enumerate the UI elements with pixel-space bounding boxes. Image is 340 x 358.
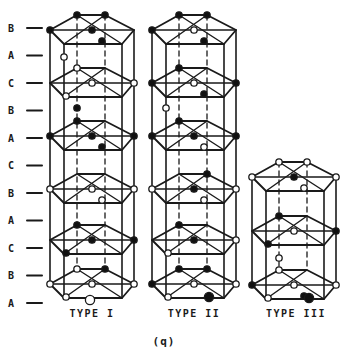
atom-c-open (89, 80, 95, 86)
stacking-sequence-axis: BACBACBACBA (8, 23, 42, 309)
atom-c-open (291, 282, 297, 288)
atom-bl-open (63, 93, 69, 99)
atom-tl-filled (176, 118, 182, 124)
atom-l-filled (249, 282, 255, 288)
atom-br-filled (201, 38, 207, 44)
atom-bl-open (165, 250, 171, 256)
atom-c-open (89, 281, 95, 287)
atom-br-open (201, 197, 207, 203)
atom-tl-open (74, 65, 80, 71)
atom-c-filled (89, 237, 95, 243)
atom-tl-open (276, 267, 282, 273)
atom-fb-open (85, 295, 94, 304)
atom-tl-filled (176, 65, 182, 71)
figure-caption: (q) (153, 335, 176, 348)
stacking-label: A (8, 215, 14, 226)
atom-tl-filled (74, 12, 80, 18)
stacking-label: A (8, 50, 14, 61)
atom-bl-filled (63, 250, 69, 256)
type-labels: TYPE I TYPE II TYPE III (69, 308, 326, 319)
atom-c-open (291, 228, 297, 234)
interlayer-atom-open (163, 105, 169, 111)
type-ii-label: TYPE II (168, 308, 221, 319)
atom-tr-filled (204, 12, 210, 18)
interlayer-atom-open (61, 54, 67, 60)
figure-canvas: BACBACBACBA TYPE I TYPE II TYPE III (q) (0, 0, 340, 358)
atom-r-open (333, 174, 339, 180)
stacking-label: A (8, 298, 14, 309)
stacking-label: A (8, 133, 14, 144)
atom-bl-open (165, 294, 171, 300)
atom-bl-open (63, 294, 69, 300)
atom-bl-filled (265, 241, 271, 247)
atom-l-filled (47, 27, 53, 33)
atom-c-filled (291, 174, 297, 180)
atom-tl-filled (74, 222, 80, 228)
atom-r-open (233, 186, 239, 192)
atom-c-open (89, 186, 95, 192)
atom-l-filled (149, 133, 155, 139)
atom-l-filled (149, 281, 155, 287)
atom-tl-open (74, 266, 80, 272)
atom-fbr-filled (304, 293, 313, 302)
atom-l-open (149, 186, 155, 192)
atom-tr-filled (102, 266, 108, 272)
atom-r-open (233, 281, 239, 287)
atom-c-filled (89, 133, 95, 139)
atom-br-open (301, 185, 307, 191)
stacking-label: B (8, 105, 14, 116)
type-ii-column (149, 12, 239, 302)
atom-tr-filled (204, 171, 210, 177)
type-i-label: TYPE I (69, 308, 114, 319)
atom-r-filled (233, 80, 239, 86)
atom-l-filled (47, 133, 53, 139)
stacking-label: C (8, 78, 14, 89)
atom-r-open (131, 281, 137, 287)
type-iii-label: TYPE III (266, 308, 326, 319)
atom-l-open (47, 186, 53, 192)
atom-c-filled (89, 27, 95, 33)
atom-tl-open (276, 159, 282, 165)
atom-r-filled (233, 133, 239, 139)
atom-r-open (333, 282, 339, 288)
stacking-label: B (8, 23, 14, 34)
atom-c-filled (191, 237, 197, 243)
atom-tr-filled (102, 12, 108, 18)
atom-r-open (233, 237, 239, 243)
atom-c-open (191, 27, 197, 33)
atom-tr-open (304, 159, 310, 165)
interlayer-atom-open (276, 255, 282, 261)
atom-l-open (47, 281, 53, 287)
atom-l-filled (149, 27, 155, 33)
type-i-column (47, 12, 137, 305)
atom-br-filled (99, 38, 105, 44)
interlayer-atom-filled (74, 105, 80, 111)
atom-tl-filled (176, 12, 182, 18)
atom-l-open (249, 174, 255, 180)
atom-br-open (99, 197, 105, 203)
atom-tl-filled (74, 118, 80, 124)
atom-r-filled (131, 237, 137, 243)
atom-c-filled (191, 133, 197, 139)
atom-r-open (131, 186, 137, 192)
atom-c-filled (191, 186, 197, 192)
stacking-label: C (8, 160, 14, 171)
stacking-label: B (8, 188, 14, 199)
atom-tl-filled (276, 213, 282, 219)
structure-columns (47, 12, 339, 305)
atom-tl-filled (176, 266, 182, 272)
stacking-label: C (8, 243, 14, 254)
atom-tl-filled (176, 222, 182, 228)
atom-l-filled (149, 80, 155, 86)
atom-r-filled (333, 228, 339, 234)
atom-br-filled (201, 91, 207, 97)
atom-c-open (191, 80, 197, 86)
atom-c-open (191, 281, 197, 287)
atom-r-filled (131, 133, 137, 139)
atom-br-open (201, 144, 207, 150)
crystal-stacking-figure: BACBACBACBA TYPE I TYPE II TYPE III (q) (0, 0, 340, 358)
stacking-label: B (8, 270, 14, 281)
atom-br-filled (99, 144, 105, 150)
atom-r-open (131, 80, 137, 86)
atom-fbr-filled (204, 292, 213, 301)
